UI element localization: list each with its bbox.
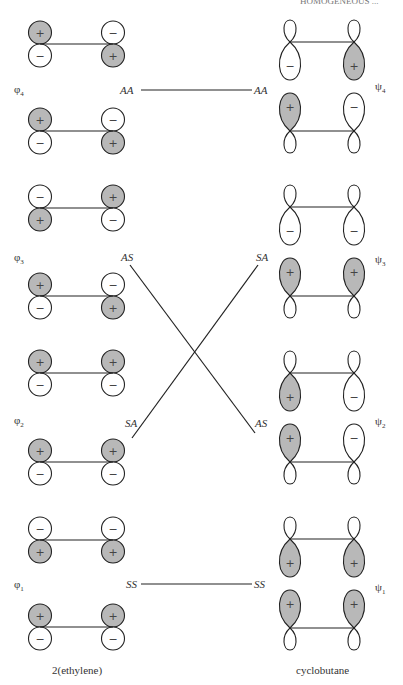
cyclobutane-mo-3: −+−+ (279, 185, 364, 318)
plus-sign-icon: + (349, 598, 358, 611)
minus-sign-icon: − (285, 225, 294, 238)
minus-sign-icon: − (349, 432, 358, 445)
cyclobutane-orbitals: −++−−+−+++−−++++ (279, 20, 364, 650)
minus-sign-icon: − (349, 225, 358, 238)
small-back-lobe (284, 185, 296, 207)
plus-sign-icon: + (35, 546, 44, 559)
cyclobutane-mo-1: ++++ (279, 517, 364, 650)
psi4-label: ψ4 (375, 80, 386, 95)
small-back-lobe (284, 20, 296, 42)
minus-sign-icon: − (108, 214, 117, 227)
phi1-label: φ1 (14, 578, 24, 593)
plus-sign-icon: + (35, 445, 44, 458)
plus-sign-icon: + (349, 60, 358, 73)
correlation-lines (130, 90, 258, 584)
ethylene-pair: +−−+ (29, 273, 125, 319)
symmetry-label-sa-right: SA (256, 251, 269, 263)
ethylene-pair: +−−+ (29, 21, 125, 67)
symmetry-label-aa-left: AA (119, 84, 134, 96)
small-back-lobe (284, 462, 296, 484)
plus-sign-icon: + (35, 214, 44, 227)
plus-sign-icon: + (285, 598, 294, 611)
minus-sign-icon: − (349, 101, 358, 114)
ethylene-pair: +−+− (29, 350, 125, 396)
plus-sign-icon: + (35, 610, 44, 623)
small-back-lobe (348, 517, 360, 539)
symmetry-label-ss-left: SS (126, 578, 138, 590)
plus-sign-icon: + (285, 101, 294, 114)
cyclobutane-caption: cyclobutane (296, 664, 349, 676)
symmetry-label-aa-right: AA (253, 84, 268, 96)
cyclobutane-mo-2: ++−− (279, 351, 364, 484)
minus-sign-icon: − (35, 137, 44, 150)
minus-sign-icon: − (35, 468, 44, 481)
ethylene-pair: +−+− (29, 439, 125, 485)
symmetry-label-ss-right: SS (254, 578, 266, 590)
minus-sign-icon: − (108, 468, 117, 481)
plus-sign-icon: + (108, 610, 117, 623)
minus-sign-icon: − (108, 279, 117, 292)
minus-sign-icon: − (108, 27, 117, 40)
small-back-lobe (284, 296, 296, 318)
ethylene-caption: 2(ethylene) (52, 664, 102, 677)
minus-sign-icon: − (35, 302, 44, 315)
small-back-lobe (348, 185, 360, 207)
plus-sign-icon: + (35, 279, 44, 292)
minus-sign-icon: − (108, 633, 117, 646)
small-back-lobe (348, 351, 360, 373)
ethylene-pair: +−−+ (29, 108, 125, 154)
plus-sign-icon: + (35, 27, 44, 40)
plus-sign-icon: + (108, 546, 117, 559)
phi4-label: φ4 (14, 83, 24, 98)
ethylene-pair: −+−+ (29, 517, 125, 563)
ethylene-pair: −++− (29, 185, 125, 231)
minus-sign-icon: − (35, 633, 44, 646)
minus-sign-icon: − (35, 379, 44, 392)
phi2-label: φ2 (14, 414, 24, 429)
plus-sign-icon: + (285, 432, 294, 445)
psi3-label: ψ3 (375, 253, 386, 268)
plus-sign-icon: + (108, 302, 117, 315)
symmetry-label-as-left: AS (120, 251, 134, 263)
minus-sign-icon: − (349, 391, 358, 404)
symmetry-label-sa-left: SA (125, 417, 138, 429)
minus-sign-icon: − (35, 191, 44, 204)
phi3-label: φ3 (14, 251, 24, 266)
cyclobutane-mo-4: −++− (279, 20, 364, 153)
minus-sign-icon: − (35, 50, 44, 63)
plus-sign-icon: + (35, 114, 44, 127)
small-back-lobe (348, 462, 360, 484)
small-back-lobe (348, 20, 360, 42)
small-back-lobe (284, 351, 296, 373)
small-back-lobe (348, 131, 360, 153)
ethylene-pair: +−+− (29, 604, 125, 650)
running-header: HOMOGENEOUS ... (300, 0, 379, 6)
plus-sign-icon: + (108, 50, 117, 63)
minus-sign-icon: − (108, 114, 117, 127)
psi2-label: ψ2 (375, 415, 386, 430)
small-back-lobe (284, 628, 296, 650)
plus-sign-icon: + (285, 391, 294, 404)
small-back-lobe (348, 628, 360, 650)
plus-sign-icon: + (35, 356, 44, 369)
plus-sign-icon: + (108, 356, 117, 369)
minus-sign-icon: − (285, 60, 294, 73)
plus-sign-icon: + (108, 445, 117, 458)
ethylene-orbitals: +−−++−−+−++−+−−++−+−+−+−−+−++−+− (29, 21, 125, 650)
plus-sign-icon: + (285, 557, 294, 570)
small-back-lobe (284, 517, 296, 539)
minus-sign-icon: − (108, 379, 117, 392)
plus-sign-icon: + (349, 266, 358, 279)
small-back-lobe (284, 131, 296, 153)
plus-sign-icon: + (349, 557, 358, 570)
small-back-lobe (348, 296, 360, 318)
plus-sign-icon: + (108, 137, 117, 150)
symmetry-label-as-right: AS (254, 417, 268, 429)
minus-sign-icon: − (35, 523, 44, 536)
correlation-line-as (130, 265, 255, 433)
minus-sign-icon: − (108, 523, 117, 536)
plus-sign-icon: + (285, 266, 294, 279)
psi1-label: ψ1 (375, 581, 386, 596)
orbital-correlation-diagram: HOMOGENEOUS ... +−−++−−+−++−+−−++−+−+−+−… (0, 0, 403, 685)
plus-sign-icon: + (108, 191, 117, 204)
